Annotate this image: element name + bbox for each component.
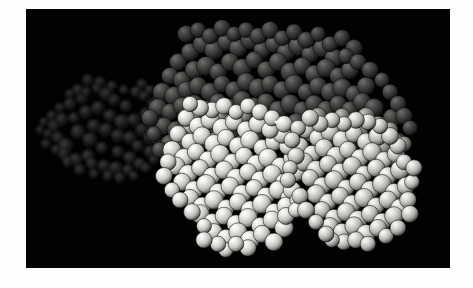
- molecule-space-filling-model: [26, 9, 450, 268]
- specular-highlight-spot: [275, 121, 278, 124]
- page-root: [0, 0, 473, 288]
- figure-panel: [26, 9, 450, 268]
